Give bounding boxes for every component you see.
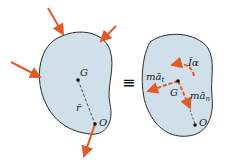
kinetics-diagram: G r̄ O ≡ Īα māt G mān O — [0, 0, 228, 164]
label-i-alpha: Īα — [187, 57, 199, 68]
label-o-right: O — [199, 117, 207, 128]
force-arrow-top-right — [101, 26, 116, 41]
label-o-left: O — [99, 117, 107, 128]
force-arrow-left — [11, 62, 40, 77]
pivot-point-o — [93, 122, 97, 126]
label-g-left: G — [80, 67, 88, 78]
equivalence-symbol: ≡ — [122, 73, 135, 92]
mass-center-point — [76, 78, 80, 82]
mass-center-point-right — [176, 79, 180, 83]
pivot-point-o-right — [193, 123, 197, 127]
label-g-right: G — [170, 87, 178, 98]
force-arrow-top — [48, 8, 63, 34]
